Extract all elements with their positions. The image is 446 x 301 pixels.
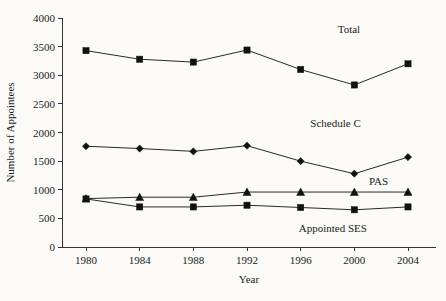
data-point-square (298, 204, 304, 210)
series-label-appointed-ses: Appointed SES (299, 222, 367, 234)
series-label-pas: PAS (369, 175, 388, 187)
y-tick-label: 0 (50, 241, 56, 253)
y-tick-label: 4000 (33, 12, 56, 24)
data-point-square (351, 82, 357, 88)
series-label-total: Total (338, 23, 360, 35)
x-tick-label: 2004 (397, 254, 420, 266)
chart-container: 05001000150020002500300035004000 1980198… (0, 0, 446, 301)
y-tick-label: 1000 (33, 184, 56, 196)
data-point-square (190, 204, 196, 210)
data-point-square (83, 48, 89, 54)
data-point-square (190, 59, 196, 65)
y-axis-title: Number of Appointees (4, 82, 16, 182)
x-tick-label: 2000 (343, 254, 366, 266)
data-point-square (244, 47, 250, 53)
y-tick-label: 3000 (33, 69, 56, 81)
y-tick-label: 500 (39, 212, 56, 224)
series-label-schedule-c: Schedule C (310, 117, 360, 129)
x-tick-label: 1996 (290, 254, 313, 266)
y-tick-label: 2000 (33, 127, 56, 139)
data-point-square (405, 204, 411, 210)
data-point-square (137, 204, 143, 210)
data-point-square (83, 196, 89, 202)
line-chart: 05001000150020002500300035004000 1980198… (0, 0, 446, 301)
x-tick-label: 1980 (75, 254, 98, 266)
y-tick-label: 2500 (33, 98, 56, 110)
data-point-square (298, 66, 304, 72)
y-tick-label: 3500 (33, 41, 56, 53)
x-tick-label: 1984 (129, 254, 152, 266)
data-point-square (137, 56, 143, 62)
x-axis-title: Year (239, 273, 260, 285)
data-point-square (405, 61, 411, 67)
x-tick-label: 1992 (236, 254, 258, 266)
data-point-square (351, 207, 357, 213)
chart-background (0, 0, 446, 301)
x-tick-label: 1988 (182, 254, 205, 266)
y-tick-label: 1500 (33, 155, 56, 167)
data-point-square (244, 202, 250, 208)
